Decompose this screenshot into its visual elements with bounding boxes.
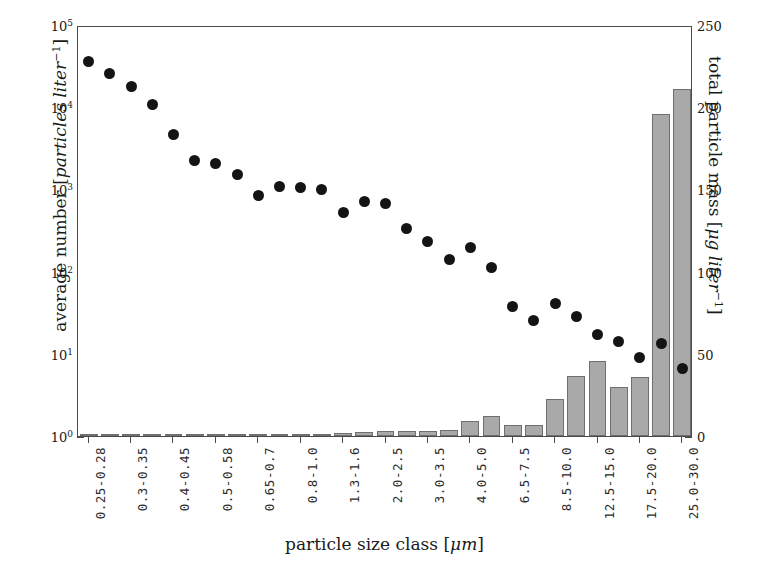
data-point [422, 236, 433, 247]
y-ticklabel-right: 50 [697, 347, 714, 362]
y-ticklabel-left: 104 [51, 100, 73, 116]
x-ticklabel: 0.4-0.45 [177, 447, 192, 511]
x-tick [130, 437, 131, 443]
x-tick [427, 437, 428, 443]
data-point [210, 158, 221, 169]
data-point [295, 182, 306, 193]
data-point [634, 352, 645, 363]
x-tick [342, 437, 343, 443]
data-point [316, 184, 327, 195]
data-point [168, 129, 179, 140]
data-point [486, 262, 497, 273]
data-point [550, 298, 561, 309]
data-point [232, 169, 243, 180]
data-point [359, 196, 370, 207]
x-ticklabel: 0.25-0.28 [93, 447, 108, 519]
y-tick-left [77, 437, 84, 438]
x-tick [512, 437, 513, 443]
data-point [656, 338, 667, 349]
x-ticklabel: 0.3-0.35 [135, 447, 150, 511]
data-point [253, 190, 264, 201]
data-point [465, 242, 476, 253]
y-ticklabel-right: 150 [697, 183, 722, 198]
data-point [444, 254, 455, 265]
y-ticklabel-right: 100 [697, 265, 722, 280]
data-point [571, 311, 582, 322]
x-ticklabel: 12.5-15.0 [602, 447, 617, 519]
scatter-series-layer [78, 27, 691, 436]
data-point [613, 336, 624, 347]
y-ticklabel-left: 100 [51, 429, 73, 445]
x-ticklabel: 4.0-5.0 [474, 447, 489, 503]
x-ticklabel: 0.65-0.7 [262, 447, 277, 511]
x-tick [88, 437, 89, 443]
x-tick [554, 437, 555, 443]
data-point [380, 198, 391, 209]
data-point [83, 56, 94, 67]
data-point [401, 223, 412, 234]
data-point [104, 68, 115, 79]
x-ticklabel: 0.5-0.58 [220, 447, 235, 511]
x-axis-title: particle size class [μm] [77, 534, 692, 554]
x-ticklabel: 1.3-1.6 [347, 447, 362, 503]
data-point [507, 301, 518, 312]
x-tick [385, 437, 386, 443]
y-ticklabel-left: 105 [51, 18, 73, 34]
x-tick [639, 437, 640, 443]
x-tick [469, 437, 470, 443]
y-ticklabel-right: 0 [697, 430, 705, 445]
data-point [189, 155, 200, 166]
x-ticklabel: 3.0-3.5 [432, 447, 447, 503]
y-ticklabel-left: 101 [51, 347, 73, 363]
y-ticklabel-right: 200 [697, 101, 722, 116]
data-point [592, 329, 603, 340]
data-point [528, 315, 539, 326]
x-tick [215, 437, 216, 443]
y-ticklabel-right: 250 [697, 19, 722, 34]
x-tick [597, 437, 598, 443]
data-point [677, 363, 688, 374]
x-ticklabel: 6.5-7.5 [517, 447, 532, 503]
data-point [338, 207, 349, 218]
y-ticklabel-left: 102 [51, 264, 73, 280]
data-point [126, 81, 137, 92]
x-ticklabel: 17.5-20.0 [644, 447, 659, 519]
x-tick [257, 437, 258, 443]
y-ticklabel-left: 103 [51, 182, 73, 198]
y-tick-right [685, 437, 692, 438]
plot-area [77, 26, 692, 437]
data-point [274, 181, 285, 192]
x-ticklabel: 2.0-2.5 [390, 447, 405, 503]
data-point [147, 99, 158, 110]
figure-root: average number [particles liter−1] total… [0, 0, 775, 574]
x-ticklabel: 25.0-30.0 [686, 447, 701, 519]
x-ticklabel: 8.5-10.0 [559, 447, 574, 511]
x-tick [172, 437, 173, 443]
x-tick [681, 437, 682, 443]
x-tick [300, 437, 301, 443]
x-ticklabel: 0.8-1.0 [305, 447, 320, 503]
